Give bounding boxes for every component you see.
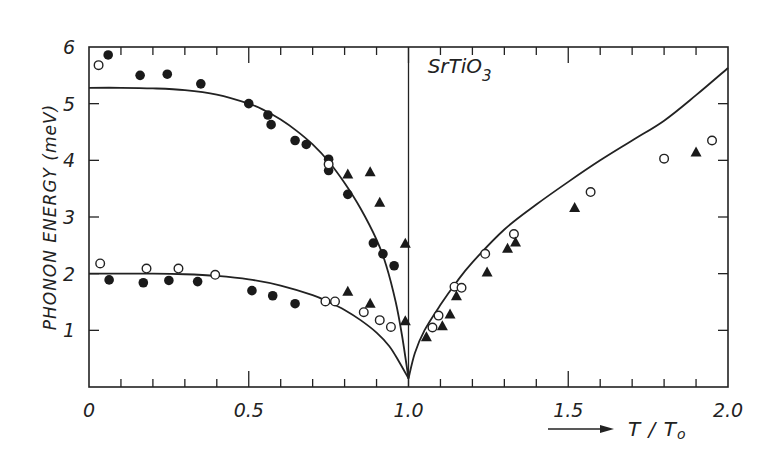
x-axis-label: T / To	[628, 417, 686, 442]
triangle-point	[342, 286, 353, 296]
phonon-energy-chart: 00.51.01.52.0123456 SrTiO3 PHONON ENERGY…	[0, 0, 775, 457]
filled-circle-point	[244, 99, 254, 109]
y-tick-label: 3	[63, 206, 75, 228]
high-temperature-fit	[409, 68, 729, 379]
open-circle-point	[457, 284, 466, 293]
triangle-point	[365, 298, 376, 308]
filled-circle-point	[164, 276, 174, 286]
open-circle-point	[331, 297, 340, 306]
open-circle-point	[586, 188, 595, 197]
filled-circle-point	[389, 261, 399, 271]
open-circle-point	[481, 250, 490, 259]
triangle-point	[437, 320, 448, 330]
open-circle-point	[387, 323, 396, 332]
y-tick-label: 1	[63, 319, 75, 341]
open-circle-point	[708, 136, 717, 145]
open-circle-point	[428, 323, 437, 332]
y-tick-label: 2	[63, 263, 75, 285]
filled-circle-point	[162, 69, 172, 79]
open-circle-point	[211, 271, 220, 280]
triangle-point	[400, 315, 411, 325]
triangle-point	[482, 267, 493, 277]
open-circle-point	[96, 259, 105, 268]
filled-circle-point	[139, 278, 149, 288]
filled-circle-point	[104, 275, 114, 285]
triangle-point	[445, 308, 456, 318]
y-tick-label: 5	[63, 93, 75, 115]
filled-circle-point	[301, 140, 311, 150]
upper-branch-fit	[89, 88, 409, 379]
y-tick-label: 6	[63, 36, 75, 58]
triangle-point	[342, 169, 353, 179]
y-axis-title: PHONON ENERGY (meV)	[40, 104, 60, 331]
filled-circle-point	[290, 136, 300, 146]
filled-circle-point	[103, 50, 113, 60]
filled-circle-point	[247, 286, 257, 296]
open-circle-point	[324, 160, 333, 169]
open-circle-point	[434, 311, 443, 320]
arrow-head-icon	[600, 425, 614, 433]
open-circle-point	[174, 264, 183, 273]
open-circle-point	[142, 264, 151, 273]
triangle-point	[569, 202, 580, 212]
filled-circle-point	[193, 277, 203, 287]
open-circle-point	[375, 316, 384, 325]
axis-tick-labels: 00.51.01.52.0123456	[63, 36, 743, 421]
filled-circle-point	[378, 249, 388, 259]
material-label: SrTiO3	[428, 54, 492, 85]
x-tick-label: 1.0	[393, 399, 423, 421]
open-circle-point	[94, 61, 103, 70]
filled-circle-point	[268, 291, 278, 301]
filled-circle-point	[369, 238, 379, 248]
triangle-point	[374, 197, 385, 207]
filled-circle-point	[290, 299, 300, 309]
y-axis-label: PHONON ENERGY (meV)	[40, 104, 60, 331]
triangle-point	[691, 146, 702, 156]
filled-circle-point	[343, 190, 353, 200]
filled-circle-point	[196, 79, 206, 89]
x-tick-label: 1.5	[553, 399, 583, 421]
open-circle-point	[510, 230, 519, 239]
filled-circle-point	[266, 120, 276, 130]
open-circle-point	[359, 308, 368, 317]
y-tick-label: 4	[63, 149, 75, 171]
data-markers	[94, 50, 716, 341]
x-tick-label: 0	[83, 399, 95, 421]
open-circle-point	[660, 154, 669, 163]
x-tick-label: 2.0	[713, 399, 743, 421]
triangle-point	[400, 238, 411, 248]
x-tick-label: 0.5	[234, 399, 264, 421]
triangle-point	[365, 166, 376, 176]
open-circle-point	[321, 297, 330, 306]
filled-circle-point	[135, 71, 145, 81]
filled-circle-point	[263, 110, 273, 120]
